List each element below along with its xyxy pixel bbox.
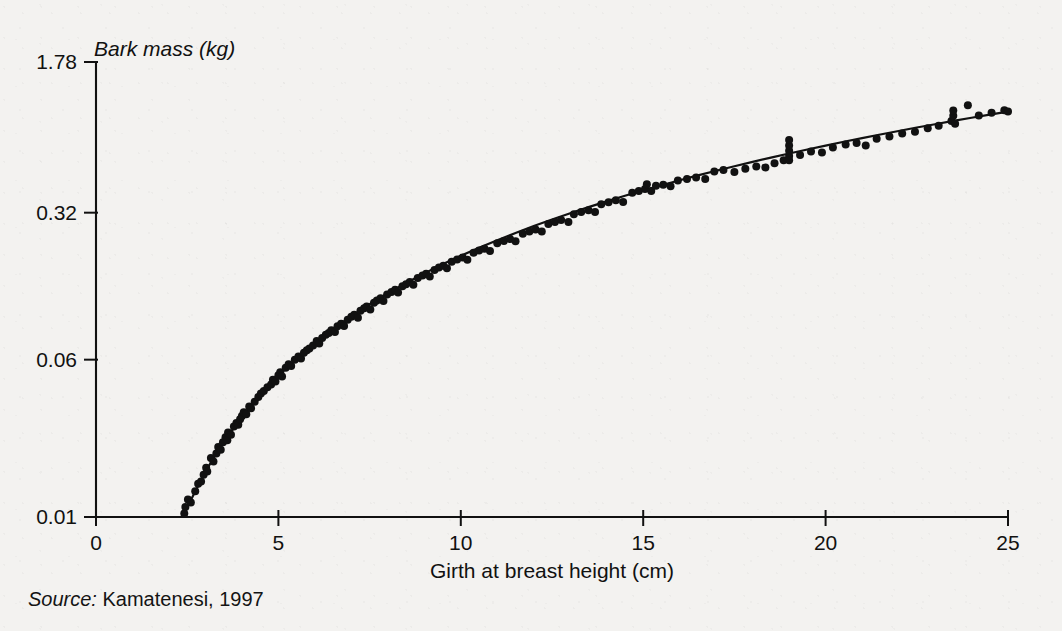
data-point bbox=[191, 487, 199, 495]
data-point bbox=[443, 264, 451, 272]
source-label: Source: bbox=[28, 588, 97, 610]
data-point bbox=[975, 111, 983, 119]
x-tick-label: 10 bbox=[449, 531, 472, 554]
source-credit: Source: Kamatenesi, 1997 bbox=[28, 588, 264, 611]
data-point bbox=[597, 200, 605, 208]
data-point bbox=[463, 256, 471, 264]
data-point bbox=[988, 109, 996, 117]
y-tick-label: 0.32 bbox=[36, 201, 77, 224]
data-point bbox=[796, 151, 804, 159]
data-point bbox=[217, 446, 225, 454]
data-point bbox=[366, 306, 374, 314]
data-point bbox=[911, 128, 919, 136]
data-point bbox=[761, 163, 769, 171]
y-tick-label: 1.78 bbox=[36, 50, 77, 73]
chart-figure: 0510152025 0.010.060.321.78 Bark mass (k… bbox=[0, 0, 1062, 631]
data-point bbox=[701, 175, 709, 183]
data-point bbox=[538, 228, 546, 236]
data-point bbox=[949, 106, 957, 114]
data-point bbox=[771, 159, 779, 167]
y-tick-label: 0.06 bbox=[36, 348, 77, 371]
data-point bbox=[898, 130, 906, 138]
data-point bbox=[853, 139, 861, 147]
data-point bbox=[667, 182, 675, 190]
data-point bbox=[842, 141, 850, 149]
data-point bbox=[659, 181, 667, 189]
x-axis-tick-labels: 0510152025 bbox=[90, 531, 1020, 554]
data-point bbox=[227, 431, 235, 439]
data-point bbox=[807, 148, 815, 156]
data-point bbox=[187, 498, 195, 506]
data-point bbox=[1004, 108, 1012, 116]
x-tick-label: 15 bbox=[632, 531, 655, 554]
data-point bbox=[785, 136, 793, 144]
x-tick-label: 0 bbox=[90, 531, 102, 554]
y-axis-tick-labels: 0.010.060.321.78 bbox=[36, 50, 77, 528]
data-point bbox=[674, 176, 682, 184]
data-point bbox=[643, 180, 651, 188]
data-point bbox=[354, 314, 362, 322]
source-value: Kamatenesi, 1997 bbox=[103, 588, 264, 610]
data-point bbox=[557, 216, 565, 224]
x-tick-label: 5 bbox=[273, 531, 285, 554]
data-point bbox=[591, 208, 599, 216]
data-point bbox=[683, 175, 691, 183]
data-point bbox=[785, 156, 793, 164]
data-point bbox=[951, 120, 959, 128]
data-point bbox=[818, 149, 826, 157]
scatter-plot-canvas: 0510152025 0.010.060.321.78 Bark mass (k… bbox=[0, 0, 1062, 631]
data-point bbox=[710, 167, 718, 175]
data-point bbox=[426, 272, 434, 280]
data-point bbox=[605, 198, 613, 206]
data-point bbox=[719, 166, 727, 174]
data-point bbox=[924, 124, 932, 132]
data-point bbox=[652, 182, 660, 190]
data-point bbox=[612, 196, 620, 204]
data-point bbox=[570, 210, 578, 218]
data-point bbox=[512, 237, 520, 245]
data-point bbox=[203, 467, 211, 475]
data-point bbox=[278, 373, 286, 381]
data-point bbox=[577, 208, 585, 216]
y-tick-label: 0.01 bbox=[36, 505, 77, 528]
data-point bbox=[209, 458, 217, 466]
data-point bbox=[486, 247, 494, 255]
data-point bbox=[885, 133, 893, 141]
y-axis-title: Bark mass (kg) bbox=[94, 37, 235, 60]
fitted-curve bbox=[184, 112, 1008, 515]
data-point bbox=[964, 101, 972, 109]
data-point bbox=[409, 281, 417, 289]
data-point bbox=[752, 162, 760, 170]
data-point bbox=[564, 218, 572, 226]
data-point bbox=[741, 165, 749, 173]
x-tick-label: 20 bbox=[814, 531, 837, 554]
axis-lines bbox=[96, 62, 1008, 517]
data-point bbox=[730, 168, 738, 176]
data-points bbox=[180, 101, 1012, 517]
regression-line bbox=[184, 112, 1008, 515]
x-axis-title: Girth at breast height (cm) bbox=[430, 559, 674, 582]
x-tick-label: 25 bbox=[996, 531, 1019, 554]
data-point bbox=[862, 141, 870, 149]
data-point bbox=[829, 144, 837, 152]
data-point bbox=[619, 198, 627, 206]
data-point bbox=[935, 122, 943, 130]
data-point bbox=[873, 135, 881, 143]
data-point bbox=[692, 173, 700, 181]
